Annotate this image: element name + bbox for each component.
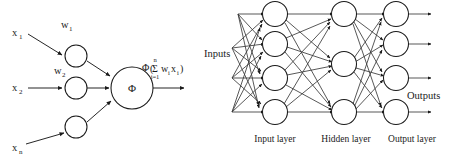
formula-lower-limit: i=1: [151, 73, 160, 80]
fan-edge: [232, 56, 261, 112]
ho-edge: [355, 45, 383, 62]
hidden-layer-caption: Hidden layer: [321, 134, 371, 144]
weight-edge-1: [87, 61, 110, 76]
formula-upper-limit: n: [153, 56, 157, 63]
figure-root: Φ x 1 x 2 x n w 1 w 2: [0, 0, 459, 160]
input-label-x1-sub: 1: [19, 33, 23, 41]
input-label-x2-base: x: [12, 82, 18, 93]
activation-node-label: Φ: [128, 82, 136, 94]
input-label-xn-base: x: [12, 142, 18, 153]
input-layer-caption: Input layer: [254, 134, 296, 144]
input-node: [263, 100, 288, 125]
left-neuron-diagram: Φ x 1 x 2 x n w 1 w 2: [12, 19, 184, 156]
input-label-xn: x n: [12, 142, 23, 156]
fan-edge: [232, 44, 264, 48]
fan-edge: [238, 14, 262, 40]
formula-phi: Φ: [142, 62, 149, 73]
ho-edge: [354, 50, 382, 107]
input-edge-x1: [28, 34, 62, 55]
input-node: [263, 2, 288, 27]
output-layer-nodes: [384, 2, 409, 125]
ho-edge: [353, 24, 381, 106]
weight-label-w1: w 1: [61, 19, 73, 33]
input-edge-xn: [26, 133, 64, 144]
input-node: [263, 32, 288, 57]
output-node: [384, 100, 409, 125]
outputs-label: Outputs: [407, 90, 440, 101]
output-node: [384, 66, 409, 91]
hidden-layer-nodes: [332, 2, 357, 125]
weight-label-w2-base: w: [54, 65, 62, 76]
ho-edge: [355, 80, 383, 110]
output-node: [384, 32, 409, 57]
input-label-xn-sub: n: [19, 148, 23, 156]
ho-edge: [354, 22, 382, 72]
formula-close-paren: ): [180, 63, 183, 75]
ih-edge: [286, 20, 330, 58]
neural-network-figure: Φ x 1 x 2 x n w 1 w 2: [0, 0, 459, 160]
input-to-hidden-edges: [284, 14, 333, 112]
ih-edge: [285, 52, 331, 107]
formula-term-x: x: [171, 63, 176, 74]
output-layer-caption: Output layer: [388, 134, 437, 144]
output-node: [384, 2, 409, 27]
input-node: [263, 66, 288, 91]
formula-term-w-sub: i: [168, 69, 170, 76]
weight-node-1: [65, 45, 87, 67]
fan-edge: [232, 48, 259, 105]
ih-edge: [287, 47, 332, 62]
input-label-x1: x 1: [12, 27, 23, 41]
weight-node-n: [65, 116, 87, 138]
weight-label-w1-sub: 1: [69, 25, 73, 33]
input-label-x1-base: x: [12, 27, 18, 38]
weight-label-w2-sub: 2: [62, 71, 66, 79]
inputs-label: Inputs: [204, 48, 230, 59]
weight-edge-n: [87, 101, 111, 122]
hidden-node: [332, 100, 357, 125]
hidden-node: [332, 2, 357, 27]
hidden-to-output-edges: [353, 14, 385, 112]
network-input-fan-edges: [232, 14, 264, 112]
input-label-x2: x 2: [12, 82, 23, 96]
weight-label-w1-base: w: [61, 19, 69, 30]
input-layer-nodes: [263, 2, 288, 125]
fan-edge: [232, 24, 262, 78]
right-network-diagram: Inputs Outputs Input layer Hidden layer …: [204, 2, 440, 145]
input-label-x2-sub: 2: [19, 88, 23, 96]
formula-term-x-sub: i: [177, 69, 179, 76]
weight-node-2: [65, 77, 87, 99]
hidden-node: [332, 52, 357, 77]
weight-label-w2: w 2: [54, 65, 66, 79]
